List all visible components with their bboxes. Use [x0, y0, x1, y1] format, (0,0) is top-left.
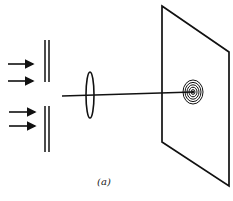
incident-arrows [8, 64, 35, 126]
figure-caption: (a) [92, 176, 116, 187]
optics-diagram [0, 0, 233, 201]
beam-line [62, 92, 193, 96]
slit-plates [45, 40, 49, 152]
